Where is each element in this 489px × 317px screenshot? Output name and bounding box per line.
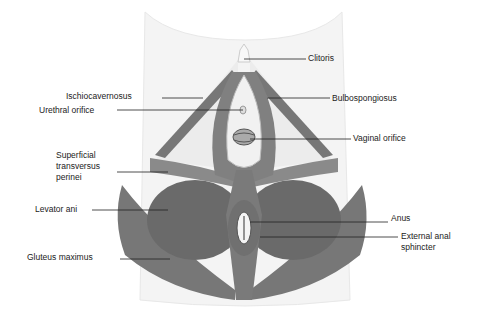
label-levator-ani: Levator ani bbox=[35, 204, 77, 215]
label-external-anal-sphincter: External anal sphincter bbox=[401, 231, 451, 253]
label-clitoris: Clitoris bbox=[308, 53, 334, 64]
label-urethral-orifice: Urethral orifice bbox=[39, 105, 94, 116]
perineum-diagram: Clitoris Ischiocavernosus Bulbospongiosu… bbox=[0, 0, 489, 317]
label-gluteus-maximus: Gluteus maximus bbox=[27, 252, 93, 263]
label-vaginal-orifice: Vaginal orifice bbox=[353, 133, 406, 144]
label-ischiocavernosus: Ischiocavernosus bbox=[66, 91, 132, 102]
label-bulbospongiosus: Bulbospongiosus bbox=[332, 93, 397, 104]
label-superficial-transversus-perinei: Superficial transversus perinei bbox=[56, 150, 100, 183]
label-anus: Anus bbox=[391, 213, 410, 224]
